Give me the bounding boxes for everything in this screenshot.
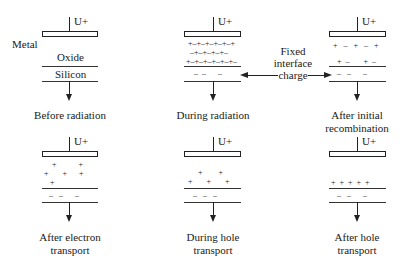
metal-gate-plate	[184, 151, 241, 157]
gate-terminal-line	[357, 17, 358, 31]
oxide-silicon-interface-line	[329, 188, 386, 189]
voltage-label: U+	[218, 135, 232, 147]
arrow-left-shaft	[245, 75, 278, 76]
interface-charge-row: – – –	[337, 69, 367, 78]
oxide-silicon-interface-line	[329, 66, 386, 67]
caption: Before radiation	[20, 109, 120, 122]
oxide-charge-row: +–+–+–+–+–+	[188, 39, 235, 48]
arrow-left-icon	[240, 72, 248, 78]
interface-charge-row: – – –	[49, 191, 79, 200]
substrate-terminal-line	[213, 81, 214, 95]
oxide-charge-row: –+–+–+–+–	[190, 48, 228, 57]
caption-line-1: During hole	[163, 231, 263, 244]
gate-terminal-line	[69, 137, 70, 151]
caption-line-2: transport	[307, 244, 400, 257]
interface-charge-row: – – –	[194, 69, 222, 78]
oxide-silicon-interface-line	[184, 66, 241, 67]
voltage-label: U+	[218, 15, 232, 27]
caption-line-2: recombination	[307, 122, 400, 135]
oxide-silicon-interface-line	[42, 188, 98, 189]
arrow-right-icon	[324, 72, 332, 78]
oxide-silicon-interface-line	[42, 66, 98, 67]
gate-terminal-line	[357, 137, 358, 151]
oxide-silicon-interface-line	[184, 188, 241, 189]
oxide-charge-row: + + +	[186, 177, 230, 186]
substrate-terminal-line	[69, 81, 70, 95]
caption-line-2: transport	[163, 244, 263, 257]
metal-gate-plate	[329, 151, 386, 157]
oxide-charge-row: + +	[44, 160, 83, 169]
arrow-down-icon	[66, 94, 72, 101]
caption-line-1: After electron	[20, 231, 120, 244]
substrate-terminal-line	[357, 81, 358, 95]
oxide-charge-row: + – + –	[333, 57, 376, 66]
arrow-down-icon	[210, 94, 216, 101]
oxide-charge-row: +–+–+–+–+–+–	[186, 57, 237, 66]
metal-gate-plate	[42, 151, 98, 157]
oxide-charge-row: + + + + +	[331, 178, 370, 187]
arrow-right-shaft	[308, 75, 325, 76]
caption-line-2: transport	[20, 244, 120, 257]
interface-charge-row: – – –	[337, 191, 367, 200]
arrow-down-icon	[354, 215, 360, 222]
voltage-label: U+	[362, 15, 376, 27]
oxide-label: Oxide	[57, 51, 84, 63]
oxide-charge-row: + +	[186, 168, 223, 177]
oxide-charge-row: + + +	[44, 169, 84, 178]
caption-line-1: After initial	[307, 109, 400, 122]
substrate-terminal-line	[213, 202, 214, 216]
annotation-line: Fixed	[266, 45, 320, 57]
voltage-label: U+	[362, 135, 376, 147]
gate-terminal-line	[69, 17, 70, 31]
metal-label: Metal	[12, 38, 38, 50]
metal-gate-plate	[184, 31, 241, 37]
silicon-bottom-line	[42, 81, 98, 82]
arrow-down-icon	[354, 94, 360, 101]
oxide-charge-row: +	[44, 178, 55, 187]
oxide-charge-row: + – + – +	[333, 41, 379, 50]
interface-charge-row: – – –	[193, 191, 217, 200]
metal-gate-plate	[329, 31, 386, 37]
silicon-label: Silicon	[55, 68, 86, 80]
caption: During radiation	[163, 109, 263, 122]
substrate-terminal-line	[69, 202, 70, 216]
annotation-line: interface	[266, 57, 320, 69]
gate-terminal-line	[213, 137, 214, 151]
gate-terminal-line	[213, 17, 214, 31]
substrate-terminal-line	[357, 202, 358, 216]
metal-gate-plate	[42, 31, 98, 37]
arrow-down-icon	[210, 215, 216, 222]
voltage-label: U+	[74, 135, 88, 147]
silicon-bottom-line	[42, 202, 98, 203]
caption-line-1: After hole	[307, 231, 400, 244]
voltage-label: U+	[74, 15, 88, 27]
arrow-down-icon	[66, 215, 72, 222]
